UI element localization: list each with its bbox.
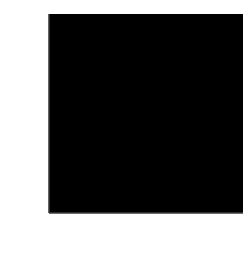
chart-canvas [0, 0, 250, 265]
plot-background [49, 14, 243, 213]
hearing-loss-area-chart [0, 0, 250, 265]
